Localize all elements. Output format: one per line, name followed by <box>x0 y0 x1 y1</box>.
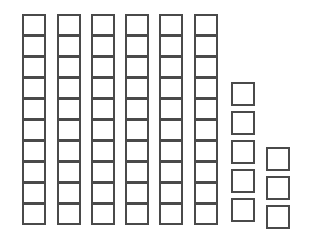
tile-square <box>57 77 81 99</box>
tile-square <box>194 77 218 99</box>
tile-square <box>125 98 149 120</box>
tile-column-8 <box>266 147 290 229</box>
tile-square <box>159 119 183 141</box>
tile-square <box>159 182 183 204</box>
tile-column-3 <box>91 14 115 225</box>
tile-square <box>91 119 115 141</box>
tile-square <box>194 56 218 78</box>
tile-square <box>125 203 149 225</box>
tile-square <box>57 161 81 183</box>
tile-square <box>125 182 149 204</box>
tile-column-6 <box>194 14 218 225</box>
tile-square <box>57 182 81 204</box>
tile-column-4 <box>125 14 149 225</box>
tile-square <box>125 161 149 183</box>
tile-square <box>57 98 81 120</box>
tile-square <box>22 182 46 204</box>
tile-column-7 <box>231 82 255 222</box>
tile-column-1 <box>22 14 46 225</box>
tile-square <box>22 77 46 99</box>
tile-square <box>194 182 218 204</box>
tile-square <box>231 82 255 106</box>
tile-square <box>91 77 115 99</box>
tile-square <box>91 203 115 225</box>
tile-square <box>194 203 218 225</box>
tile-square <box>159 35 183 57</box>
tile-square <box>91 98 115 120</box>
tile-square <box>22 140 46 162</box>
tile-square <box>22 35 46 57</box>
tile-square <box>125 56 149 78</box>
tile-square <box>22 161 46 183</box>
tile-square <box>159 56 183 78</box>
tile-square <box>57 140 81 162</box>
tile-square <box>22 203 46 225</box>
tile-square <box>125 140 149 162</box>
tile-square <box>194 14 218 36</box>
tile-square <box>57 35 81 57</box>
tile-square <box>91 161 115 183</box>
tile-square <box>159 77 183 99</box>
tile-square <box>231 111 255 135</box>
tile-square <box>159 14 183 36</box>
tile-square <box>125 77 149 99</box>
tile-square <box>57 119 81 141</box>
tile-square <box>57 56 81 78</box>
tile-square <box>91 35 115 57</box>
tile-square <box>231 140 255 164</box>
tile-square <box>22 14 46 36</box>
tile-square <box>91 140 115 162</box>
tile-square <box>266 205 290 229</box>
tile-square <box>194 119 218 141</box>
tile-square <box>57 203 81 225</box>
tile-square <box>231 198 255 222</box>
tile-square <box>91 14 115 36</box>
tile-column-2 <box>57 14 81 225</box>
tile-square <box>159 98 183 120</box>
tile-square <box>159 203 183 225</box>
tile-column-5 <box>159 14 183 225</box>
tile-square <box>22 98 46 120</box>
tile-square <box>159 140 183 162</box>
tile-square <box>22 119 46 141</box>
tile-square <box>57 14 81 36</box>
tile-square <box>194 161 218 183</box>
tile-square <box>266 176 290 200</box>
tile-square <box>91 56 115 78</box>
tile-square <box>22 56 46 78</box>
tile-square <box>159 161 183 183</box>
tile-square <box>194 140 218 162</box>
tile-square <box>125 119 149 141</box>
tile-square <box>266 147 290 171</box>
tile-square <box>194 98 218 120</box>
tile-square <box>231 169 255 193</box>
tile-square <box>194 35 218 57</box>
tile-square <box>125 35 149 57</box>
tile-square <box>125 14 149 36</box>
tile-diagram-canvas <box>0 0 312 234</box>
tile-square <box>91 182 115 204</box>
